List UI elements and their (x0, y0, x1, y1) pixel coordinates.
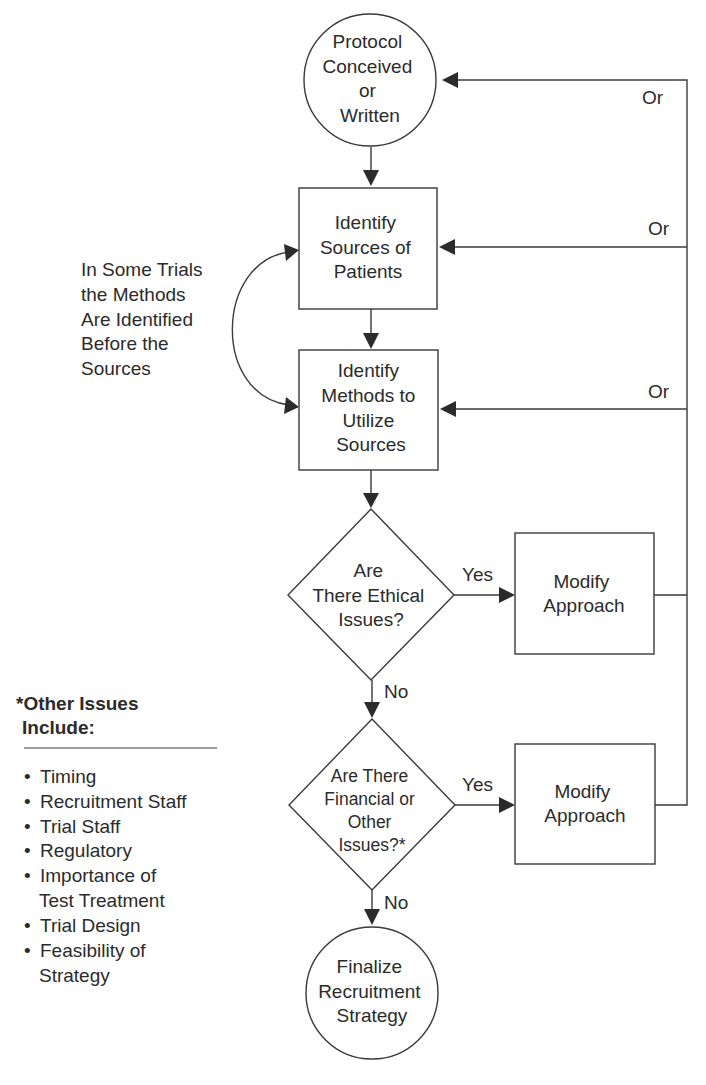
label-or-sources: Or (648, 218, 670, 239)
arrowhead-down-icon (363, 333, 379, 349)
label-or-methods: Or (648, 381, 670, 402)
recruitment-flowchart: Protocol Conceived or Written Identify S… (0, 0, 706, 1085)
edge-curved-methods-before-sources (232, 252, 289, 405)
list-item: •Timing (24, 766, 96, 787)
list-item: •Feasibility ofStrategy (24, 940, 146, 986)
arrowhead-down-icon (363, 493, 379, 508)
arrowhead-left-icon (440, 401, 456, 417)
list-item: •Trial Staff (24, 816, 121, 837)
arrowhead-down-icon (364, 909, 380, 925)
arrowhead-right-icon (499, 587, 515, 603)
node-modify1-box (515, 533, 654, 654)
edge-feedback-spine (458, 80, 687, 805)
arrowhead-left-icon (439, 239, 455, 255)
label-yes-financial: Yes (462, 774, 493, 795)
label-no-financial: No (384, 892, 408, 913)
label-yes-ethical: Yes (462, 564, 493, 585)
arrowhead-down-icon (363, 170, 379, 186)
other-issues-list: •Timing •Recruitment Staff •Trial Staff … (24, 766, 187, 986)
arrowhead-curve-icon (284, 397, 299, 414)
arrowhead-down-icon (364, 702, 380, 718)
arrowhead-right-icon (499, 797, 515, 813)
list-item: •Trial Design (24, 915, 141, 936)
label-or-top: Or (642, 87, 664, 108)
other-issues-heading: *Other Issues Include: (16, 693, 144, 738)
side-note-methods-before-sources: In Some Trials the Methods Are Identifie… (81, 259, 208, 379)
arrowhead-left-icon (442, 72, 458, 88)
list-item: •Recruitment Staff (24, 791, 187, 812)
node-modify2-box (515, 744, 655, 864)
label-no-ethical: No (384, 681, 408, 702)
arrowhead-curve-icon (284, 244, 299, 261)
list-item: •Importance ofTest Treatment (24, 865, 165, 911)
list-item: •Regulatory (24, 840, 132, 861)
